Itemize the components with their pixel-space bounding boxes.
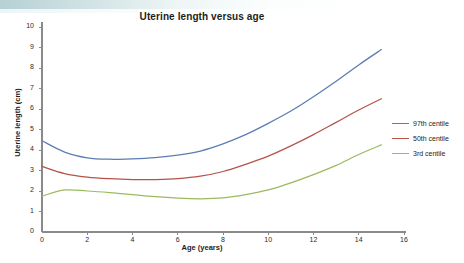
- legend-item-label: 3rd centile: [413, 150, 445, 157]
- chart-legend: 97th centile50th centile3rd centile: [392, 116, 464, 161]
- legend-item-label: 97th centile: [413, 120, 449, 127]
- x-tick-label: 12: [305, 236, 323, 243]
- legend-item[interactable]: 97th centile: [392, 116, 464, 131]
- y-tick-label: 2: [16, 186, 34, 193]
- data-series-group: [42, 50, 381, 199]
- y-tick-label: 9: [16, 43, 34, 50]
- x-tick-label: 2: [78, 236, 96, 243]
- chart-figure: Uterine length versus age 012345678910 0…: [0, 0, 464, 263]
- x-tick-label: 14: [350, 236, 368, 243]
- legend-item[interactable]: 3rd centile: [392, 146, 464, 161]
- y-tick-label: 1: [16, 207, 34, 214]
- series-line-1: [42, 50, 381, 160]
- legend-color-swatch: [392, 153, 409, 154]
- series-line-3: [42, 145, 381, 199]
- y-axis-title: Uterine length (cm): [13, 68, 22, 178]
- x-tick-label: 16: [395, 236, 413, 243]
- x-tick-label: 10: [259, 236, 277, 243]
- x-tick-label: 0: [33, 236, 51, 243]
- legend-color-swatch: [392, 138, 409, 139]
- legend-item[interactable]: 50th centile: [392, 131, 464, 146]
- y-tick-label: 10: [16, 22, 34, 29]
- x-tick-label: 6: [169, 236, 187, 243]
- y-tick-label: 0: [16, 227, 34, 234]
- x-tick-label: 4: [124, 236, 142, 243]
- legend-item-label: 50th centile: [413, 135, 449, 142]
- x-tick-label: 8: [214, 236, 232, 243]
- axes: [39, 22, 406, 235]
- x-axis-title: Age (years): [0, 243, 404, 252]
- legend-color-swatch: [392, 123, 409, 124]
